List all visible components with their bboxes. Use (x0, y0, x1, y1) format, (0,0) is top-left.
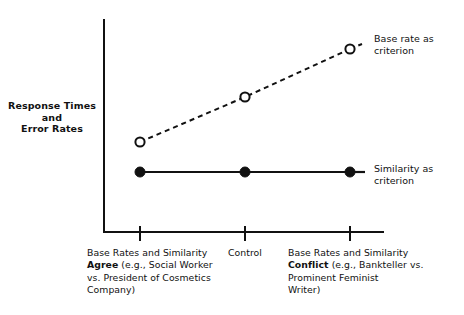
legend-label-base-rate: Base rate as criterion (374, 33, 462, 56)
y-axis-label-line-3: Error Rates (6, 123, 98, 135)
legend-base-rate-line-2: criterion (374, 45, 462, 57)
legend-base-rate-line-1: Base rate as (374, 33, 462, 45)
x-category-conflict-line-4: Writer) (288, 284, 448, 296)
legend-similarity-line-2: criterion (374, 175, 462, 187)
data-point-base-rate-2 (345, 44, 354, 53)
x-axis-category-label-conflict: Base Rates and Similarity Conflict (e.g.… (288, 247, 448, 297)
x-category-conflict-line-3: Prominent Feminist (288, 272, 448, 284)
legend-label-similarity: Similarity as criterion (374, 163, 462, 186)
data-point-similarity-2 (345, 167, 355, 177)
y-axis-label-line-2: and (6, 112, 98, 124)
data-point-similarity-0 (135, 167, 145, 177)
x-axis-category-label-agree: Base Rates and Similarity Agree (e.g., S… (87, 247, 237, 297)
x-category-agree-line-3: vs. President of Cosmetics (87, 272, 237, 284)
x-category-conflict-line-2-rest: (e.g., Bankteller vs. (332, 259, 424, 270)
data-point-base-rate-1 (240, 92, 249, 101)
x-category-agree-line-2-rest: (e.g., Social Worker (121, 259, 212, 270)
x-category-agree-line-4: Company) (87, 284, 237, 296)
x-axis-category-label-control: Control (228, 247, 288, 259)
chart-figure: Response Times and Error Rates Base rate… (0, 0, 464, 315)
x-category-conflict-emphasis: Conflict (288, 259, 329, 270)
x-category-agree-line-2: Agree (e.g., Social Worker (87, 259, 237, 271)
legend-similarity-line-1: Similarity as (374, 163, 462, 175)
data-point-base-rate-0 (135, 137, 144, 146)
x-category-agree-emphasis: Agree (87, 259, 118, 270)
x-category-agree-line-1: Base Rates and Similarity (87, 247, 237, 259)
x-category-control-line-1: Control (228, 247, 288, 259)
y-axis-label-line-1: Response Times (6, 100, 98, 112)
x-category-conflict-line-1: Base Rates and Similarity (288, 247, 448, 259)
x-category-conflict-line-2: Conflict (e.g., Bankteller vs. (288, 259, 448, 271)
data-point-similarity-1 (240, 167, 250, 177)
y-axis-label: Response Times and Error Rates (6, 100, 98, 135)
